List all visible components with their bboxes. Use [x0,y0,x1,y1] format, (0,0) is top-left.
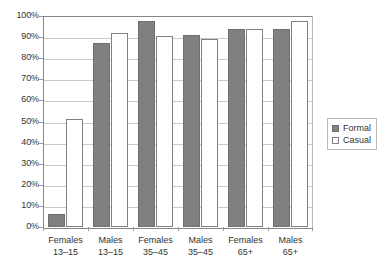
legend-label-formal: Formal [343,123,371,133]
x-axis-group-label-line2: 35–45 [133,246,178,258]
x-axis-ticks [43,227,313,231]
x-axis-group-label: Females35–45 [133,234,178,258]
y-axis-tick-label: 90% [0,32,39,41]
x-axis-group-label-line1: Females [48,235,83,245]
x-axis-tick-mark [133,227,134,231]
x-axis-tick-mark [223,227,224,231]
x-axis-group-label-line1: Males [188,235,212,245]
legend-item-casual: Casual [332,134,371,146]
x-axis-group-label-line1: Females [138,235,173,245]
y-axis-tick-label: 80% [0,53,39,62]
y-axis-tick-label: 70% [0,74,39,83]
legend: Formal Casual [327,118,377,150]
y-axis-tick-label: 100% [0,11,39,20]
x-axis-tick-mark [88,227,89,231]
x-axis-group-label-line2: 65+ [223,246,268,258]
x-axis-group-label: Males13–15 [88,234,133,258]
bar-formal-0 [48,214,65,227]
legend-label-casual: Casual [343,135,371,145]
bar-formal-5 [273,29,290,227]
bar-casual-2 [156,36,173,227]
y-axis-tick-label: 10% [0,201,39,210]
legend-swatch-casual-icon [332,137,339,144]
x-axis-group-label-line2: 13–15 [88,246,133,258]
x-axis-group-label-line2: 35–45 [178,246,223,258]
y-axis-tick-label: 0% [0,222,39,231]
y-axis-tick-label: 30% [0,159,39,168]
y-axis-tick-label: 20% [0,180,39,189]
x-axis-group-label-line2: 65+ [268,246,313,258]
x-axis-tick-mark [312,227,313,231]
x-axis: Females13–15Males13–15Females35–45Males3… [43,234,313,266]
y-axis-tick-label: 40% [0,138,39,147]
bar-casual-1 [111,33,128,227]
bar-casual-5 [291,21,308,227]
bar-casual-0 [66,119,83,227]
x-axis-tick-mark [43,227,44,231]
bars-layer [43,16,313,227]
x-axis-group-label: Males65+ [268,234,313,258]
x-axis-group-label-line1: Males [278,235,302,245]
x-axis-group-label: Males35–45 [178,234,223,258]
bar-casual-3 [201,39,218,227]
x-axis-tick-mark [178,227,179,231]
y-axis-tick-label: 50% [0,117,39,126]
bar-chart: 0%10%20%30%40%50%60%70%80%90%100% Female… [0,0,389,269]
bar-casual-4 [246,29,263,227]
bar-formal-3 [183,35,200,227]
legend-swatch-formal-icon [332,125,339,132]
bar-formal-2 [138,21,155,227]
y-axis-tick-label: 60% [0,95,39,104]
x-axis-group-label-line1: Males [98,235,122,245]
legend-item-formal: Formal [332,122,371,134]
x-axis-group-label-line1: Females [228,235,263,245]
bar-formal-1 [93,43,110,227]
x-axis-group-label: Females13–15 [43,234,88,258]
x-axis-tick-mark [268,227,269,231]
x-axis-group-label: Females65+ [223,234,268,258]
x-axis-group-label-line2: 13–15 [43,246,88,258]
y-axis: 0%10%20%30%40%50%60%70%80%90%100% [0,0,39,269]
bar-formal-4 [228,29,245,227]
